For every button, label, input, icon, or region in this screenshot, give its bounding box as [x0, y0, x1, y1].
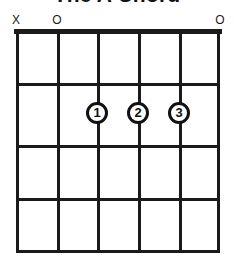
chord-diagram: The A Chord X O O 1 2 3	[0, 0, 234, 278]
finger-dot-1: 1	[86, 102, 108, 124]
finger-dot-3: 3	[168, 102, 190, 124]
finger-dot-layer: 1 2 3	[0, 0, 234, 278]
finger-dot-2: 2	[127, 102, 149, 124]
